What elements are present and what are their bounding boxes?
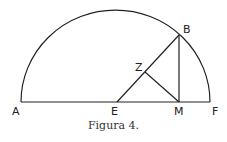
label-F: F (212, 106, 218, 117)
label-M: M (174, 106, 184, 117)
segment-ZM (145, 72, 179, 102)
label-E: E (111, 106, 118, 117)
label-Z: Z (135, 62, 143, 73)
radius-EB (117, 35, 179, 102)
figure-caption: Figura 4. (0, 119, 227, 132)
label-B: B (183, 24, 191, 35)
label-A: A (12, 106, 20, 117)
semicircle-arc (21, 10, 210, 102)
